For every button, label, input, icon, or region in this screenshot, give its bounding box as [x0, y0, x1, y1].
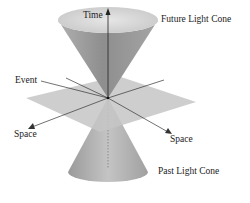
- space-left-label: Space: [14, 130, 37, 140]
- event-label: Event: [15, 76, 37, 86]
- light-cone-diagram: Time Future Light Cone Event Space Space…: [0, 0, 250, 203]
- event-point: [107, 97, 110, 100]
- future-light-cone-label: Future Light Cone: [161, 15, 231, 25]
- time-label: Time: [83, 11, 103, 21]
- space-right-label: Space: [170, 135, 193, 145]
- past-light-cone-label: Past Light Cone: [158, 167, 219, 177]
